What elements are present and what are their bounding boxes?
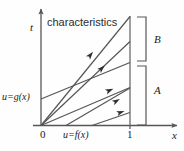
x-axis-label: x	[172, 130, 177, 141]
characteristic-line-6	[92, 113, 130, 126]
characteristics-diagram: characteristics t x 0 1 u=g(x) u=f(x) A …	[0, 0, 184, 151]
bottom-boundary-condition-label: u=f(x)	[63, 130, 89, 140]
bracket-B	[137, 17, 146, 61]
origin-label: 0	[40, 129, 46, 140]
left-boundary-condition-label: u=g(x)	[2, 92, 30, 102]
characteristic-line-1	[41, 17, 130, 126]
t-axis-label: t	[30, 22, 33, 33]
characteristic-direction-arrows	[86, 50, 125, 116]
region-label-a: A	[154, 85, 161, 96]
x-tick-label-one: 1	[127, 129, 133, 140]
direction-arrow-1	[86, 50, 95, 59]
characteristic-line-2	[41, 42, 130, 126]
direction-arrow-3	[105, 86, 114, 94]
region-label-b: B	[154, 34, 161, 45]
bracket-A	[137, 66, 146, 125]
region-brackets	[137, 17, 146, 125]
characteristic-lines	[41, 17, 130, 126]
characteristics-label: characteristics	[47, 17, 117, 28]
